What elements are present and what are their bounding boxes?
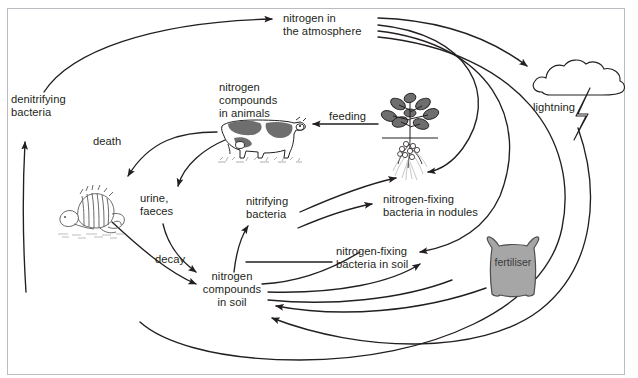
nitrogen-cycle-diagram: nitrogen in the atmosphere denitrifying … (0, 0, 638, 378)
label-urine-faeces: urine, faeces (140, 192, 173, 218)
label-lightning: lightning (533, 101, 575, 114)
label-nitrogen-compounds-in-soil: nitrogen compounds in soil (196, 270, 268, 309)
label-fertiliser: fertiliser (486, 256, 540, 268)
label-nitrogen-in-atmosphere: nitrogen in the atmosphere (283, 12, 361, 38)
fertiliser-sack (482, 236, 544, 304)
label-denitrifying-bacteria: denitrifying bacteria (11, 93, 66, 119)
cow-illustration (216, 114, 308, 164)
label-nitrogen-fixing-bacteria-in-soil: nitrogen-fixing bacteria in soil (336, 245, 408, 271)
label-death: death (93, 135, 121, 148)
dead-animal-illustration (56, 184, 132, 242)
label-nitrogen-fixing-bacteria-in-nodules: nitrogen-fixing bacteria in nodules (383, 193, 478, 219)
label-nitrifying-bacteria: nitrifying bacteria (246, 195, 288, 221)
label-decay: decay (155, 253, 185, 266)
label-feeding: feeding (329, 110, 366, 123)
legume-plant-illustration (380, 92, 440, 184)
label-nitrogen-compounds-in-animals: nitrogen compounds in animals (219, 81, 277, 120)
